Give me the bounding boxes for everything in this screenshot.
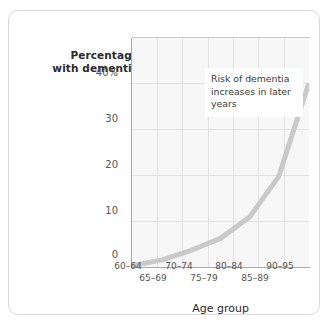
x-tick-75-79: 75–79 xyxy=(181,273,227,283)
x-tick-90-95: 90–95 xyxy=(257,261,303,271)
x-tick-65-69: 65–69 xyxy=(130,273,176,283)
x-tick-60-64: 60–64 xyxy=(105,261,151,271)
x-tick-labels: 60–64 65–69 70–74 75–79 80–84 85–89 90–9… xyxy=(0,0,330,325)
x-tick-85-89: 85–89 xyxy=(232,273,278,283)
x-tick-80-84: 80–84 xyxy=(206,261,252,271)
x-tick-70-74: 70–74 xyxy=(156,261,202,271)
